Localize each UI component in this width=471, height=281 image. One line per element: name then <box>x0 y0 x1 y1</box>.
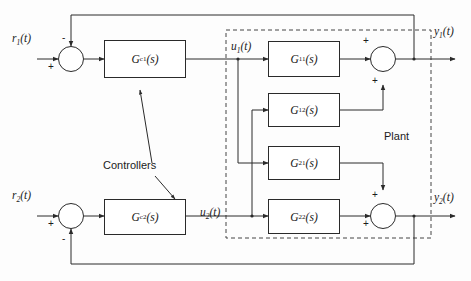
controller-gc2-base: G <box>131 211 139 223</box>
sum-right-top[interactable] <box>370 46 396 72</box>
controller-gc1-arg: (s) <box>146 53 158 65</box>
sum-right-bottom[interactable] <box>370 203 396 229</box>
r1-arg: (t) <box>20 32 31 44</box>
sign-sum-right-top-cross: + <box>372 76 378 86</box>
y2-arg: (t) <box>443 191 454 203</box>
u2-arg: (t) <box>210 206 221 218</box>
sign-sum-left-top-reference: + <box>48 62 54 72</box>
wire-g21-to-sum4 <box>340 163 383 190</box>
controller-gc2-arg: (s) <box>146 211 158 223</box>
plant-group-label: Plant <box>384 131 409 142</box>
sign-sum-left-bottom-feedback: - <box>62 234 65 244</box>
plant-g22-arg: (s) <box>306 211 318 223</box>
controllers-group-label: Controllers <box>103 160 156 171</box>
signal-label-u2: u2(t) <box>200 207 220 221</box>
controller-block-gc1[interactable]: Gc1(s) <box>104 40 186 78</box>
controller-gc1-sub: c1 <box>140 55 147 63</box>
plant-block-g11[interactable]: G11(s) <box>268 41 340 77</box>
plant-block-g22[interactable]: G22(s) <box>268 199 340 234</box>
plant-block-g12[interactable]: G12(s) <box>268 93 340 127</box>
sign-sum-right-bottom-direct: + <box>363 219 369 229</box>
r2-arg: (t) <box>20 189 31 201</box>
input-label-r2: r2(t) <box>12 190 31 204</box>
wire-u1-to-g21 <box>238 59 268 163</box>
input-label-r1: r1(t) <box>12 33 31 47</box>
plant-g12-arg: (s) <box>306 104 318 116</box>
sign-sum-right-top-direct: + <box>363 36 369 46</box>
controller-gc2-sub: c2 <box>140 213 147 221</box>
plant-g22-base: G <box>290 211 298 223</box>
plant-g21-base: G <box>290 157 298 169</box>
plant-g22-sub: 22 <box>299 213 306 221</box>
controller-gc1-base: G <box>131 53 139 65</box>
plant-g11-sub: 11 <box>299 55 306 63</box>
plant-g21-sub: 21 <box>299 159 306 167</box>
output-label-y2: y2(t) <box>434 192 454 206</box>
plant-g12-base: G <box>290 104 298 116</box>
plant-g21-arg: (s) <box>306 157 318 169</box>
sign-sum-right-bottom-cross: + <box>372 190 378 200</box>
output-label-y1: y1(t) <box>434 26 454 40</box>
wire-g12-to-sum3 <box>340 85 383 110</box>
plant-g11-arg: (s) <box>305 53 317 65</box>
annot-arrow-to-gc2 <box>155 176 175 199</box>
y1-arg: (t) <box>443 25 454 37</box>
plant-g11-base: G <box>290 53 298 65</box>
sum-left-bottom[interactable] <box>58 203 84 229</box>
annot-arrow-to-gc1 <box>140 90 152 163</box>
controller-block-gc2[interactable]: Gc2(s) <box>104 199 186 235</box>
block-diagram-canvas: Gc1(s) Gc2(s) G11(s) G12(s) G21(s) G22(s… <box>0 0 471 281</box>
sum-left-top[interactable] <box>58 46 84 72</box>
u1-arg: (t) <box>241 40 252 52</box>
sign-sum-left-top-feedback: - <box>62 33 65 43</box>
plant-g12-sub: 12 <box>299 106 306 114</box>
plant-block-g21[interactable]: G21(s) <box>268 146 340 180</box>
signal-label-u1: u1(t) <box>231 41 251 55</box>
sign-sum-left-bottom-reference: + <box>48 219 54 229</box>
